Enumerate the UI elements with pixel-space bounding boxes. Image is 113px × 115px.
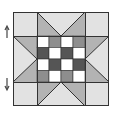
quilt-diagram [0, 0, 113, 115]
checker-cell [49, 48, 61, 60]
checker-cell [37, 59, 49, 71]
checker-cell [61, 48, 73, 60]
checker-cell [61, 36, 73, 48]
checker-cell [73, 71, 85, 83]
corner-top-right [85, 12, 109, 36]
quilt-block-svg [0, 0, 113, 115]
checker-cell [61, 71, 73, 83]
checker-cell [37, 48, 49, 60]
down-arrow-icon [5, 78, 9, 90]
corner-bottom-left [13, 82, 37, 106]
up-arrow-icon [5, 26, 9, 38]
checker-cell [49, 59, 61, 71]
checker-cell [37, 71, 49, 83]
checker-cell [73, 36, 85, 48]
corner-bottom-right [85, 82, 109, 106]
checker-cell [37, 36, 49, 48]
checker-cell [49, 36, 61, 48]
corner-top-left [13, 12, 37, 36]
checker-cell [73, 59, 85, 71]
checker-cell [61, 59, 73, 71]
checker-cell [49, 71, 61, 83]
checkerboard-center [37, 36, 85, 82]
checker-cell [73, 48, 85, 60]
